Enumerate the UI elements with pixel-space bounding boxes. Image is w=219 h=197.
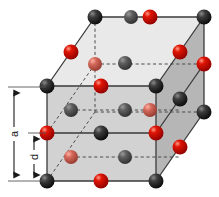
atom-red-edge [173, 45, 188, 60]
atom-dark-corner [149, 174, 164, 189]
dimension-d-label: d [28, 154, 40, 160]
atom-red-edge [149, 126, 164, 141]
dimension-a-label: a [8, 130, 20, 137]
atom-dark-interior [118, 103, 132, 117]
atom-dark-corner [88, 10, 103, 25]
atom-dark-interior [124, 10, 138, 24]
atom-red-edge [197, 57, 212, 72]
dimension-a: a [8, 93, 21, 175]
atom-dark-edge [94, 126, 109, 141]
atom-red-edge [94, 79, 109, 94]
atom-red-interior [143, 103, 157, 117]
atom-dark-corner [197, 105, 212, 120]
figure-canvas: a d [0, 0, 219, 197]
crystal-lattice-svg: a d [0, 0, 219, 197]
atom-dark-corner [40, 79, 55, 94]
atom-dark-interior [64, 103, 78, 117]
atom-red-interior [64, 150, 78, 164]
atom-red-interior [88, 57, 102, 71]
atom-red-edge [64, 45, 79, 60]
atom-red-edge [94, 174, 109, 189]
atom-dark-corner [149, 79, 164, 94]
atom-dark-corner [197, 10, 212, 25]
atom-dark-interior [118, 56, 132, 70]
atom-dark-interior [118, 150, 132, 164]
atom-dark-edge [173, 92, 188, 107]
atom-red-edge [173, 140, 188, 155]
atom-red-edge [143, 10, 158, 25]
dimension-d: d [28, 139, 41, 175]
